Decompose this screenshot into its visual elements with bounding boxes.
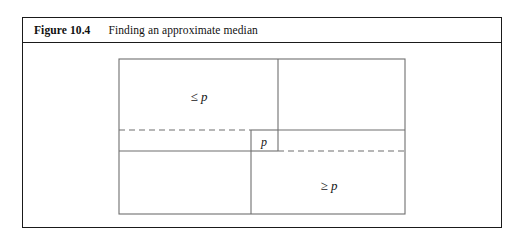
lower-right-region-label: ≥ p [321,178,338,193]
figure-number-label: Figure 10.4 [23,24,90,36]
pivot-cell-label: p [260,135,267,149]
figure-frame: Figure 10.4 Finding an approximate media… [22,17,502,228]
figure-caption-text: Finding an approximate median [90,24,258,36]
figure-caption-bar: Figure 10.4 Finding an approximate media… [23,18,501,43]
median-partition-diagram: ≤ p p ≥ p [23,43,501,227]
upper-left-region-label: ≤ p [191,89,208,104]
figure-page: Figure 10.4 Finding an approximate media… [0,0,522,243]
figure-diagram-area: ≤ p p ≥ p [23,43,501,227]
